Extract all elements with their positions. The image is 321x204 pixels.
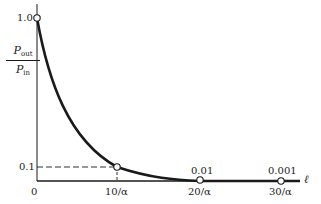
x-tick-10-alpha: 10/α bbox=[105, 187, 128, 197]
x-tick-0: 0 bbox=[31, 187, 37, 197]
y-tick-1.0: 1.0 bbox=[17, 13, 33, 23]
x-axis-label: ℓ bbox=[304, 174, 309, 185]
y-label-num-var: P bbox=[14, 44, 21, 57]
point-marker-30-alpha bbox=[278, 178, 284, 184]
annotation-0.001: 0.001 bbox=[268, 166, 297, 176]
x-tick-30-alpha: 30/α bbox=[269, 187, 292, 197]
x-tick-20-alpha: 20/α bbox=[188, 187, 211, 197]
y-axis-label: Pout Pin bbox=[6, 44, 40, 77]
annotation-0.01: 0.01 bbox=[191, 166, 213, 176]
point-marker-0 bbox=[34, 15, 40, 21]
point-marker-20-alpha bbox=[197, 177, 203, 183]
point-marker-10-alpha bbox=[114, 164, 120, 170]
y-tick-0.1: 0.1 bbox=[19, 162, 35, 172]
y-label-den-sub: in bbox=[23, 69, 30, 77]
decay-curve bbox=[37, 18, 300, 181]
y-label-num-sub: out bbox=[21, 50, 33, 58]
